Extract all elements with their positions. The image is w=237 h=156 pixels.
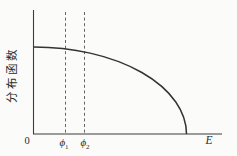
origin-label: 0 bbox=[24, 136, 29, 147]
y-axis-label: 分布函数 bbox=[7, 47, 19, 103]
phi1-label: ϕ1 bbox=[59, 137, 68, 148]
phi2-label: ϕ2 bbox=[80, 137, 89, 148]
phi2-subscript: 2 bbox=[86, 143, 90, 151]
phi1-subscript: 1 bbox=[65, 143, 69, 151]
plot-canvas bbox=[0, 0, 237, 156]
distribution-curve bbox=[34, 47, 187, 134]
x-axis-label: E bbox=[205, 135, 212, 147]
distribution-function-figure: 分布函数 0 ϕ1 ϕ2 E bbox=[0, 0, 237, 156]
